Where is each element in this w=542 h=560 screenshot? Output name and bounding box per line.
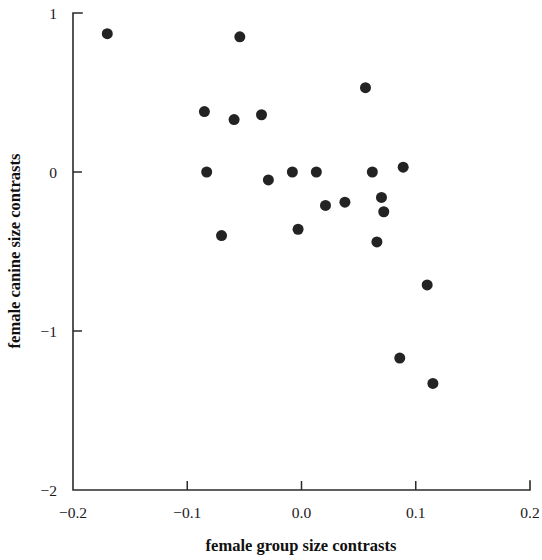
data-point	[263, 174, 274, 185]
data-point	[320, 200, 331, 211]
data-point	[201, 167, 212, 178]
data-point	[293, 224, 304, 235]
data-point	[229, 114, 240, 125]
data-point	[234, 31, 245, 42]
data-points-group	[102, 28, 439, 389]
data-point	[287, 167, 298, 178]
data-point	[102, 28, 113, 39]
y-axis-tick-label: 1	[49, 5, 57, 22]
y-axis-title: female canine size contrasts	[5, 153, 24, 348]
x-axis-tick-label: 0.0	[292, 504, 312, 521]
data-point	[367, 167, 378, 178]
data-point	[371, 236, 382, 247]
y-axis-tick-label: 0	[49, 164, 57, 181]
data-point	[199, 106, 210, 117]
data-point	[398, 162, 409, 173]
data-point	[256, 109, 267, 120]
x-axis-title: female group size contrasts	[206, 536, 397, 555]
x-axis-tick-label: 0.1	[406, 504, 425, 521]
x-axis-tick-label: −0.1	[173, 504, 201, 521]
x-axis-tick-label: −0.2	[59, 504, 87, 521]
data-point	[339, 197, 350, 208]
x-axis-tick-label: 0.2	[520, 504, 539, 521]
x-axis-tick-labels: −0.2−0.10.00.10.2	[59, 504, 540, 521]
y-axis-tick-label: −1	[41, 323, 58, 340]
axis-frame	[73, 13, 530, 490]
data-point	[427, 378, 438, 389]
x-axis-ticks	[187, 481, 416, 490]
data-point	[311, 167, 322, 178]
scatter-plot-figure: 10−1−2 −0.2−0.10.00.10.2 female group si…	[0, 0, 542, 560]
data-point	[422, 279, 433, 290]
data-point	[216, 230, 227, 241]
data-point	[360, 82, 371, 93]
data-point	[378, 206, 389, 217]
axes-group	[73, 13, 530, 490]
plot-canvas: 10−1−2 −0.2−0.10.00.10.2 female group si…	[0, 0, 542, 560]
data-point	[394, 353, 405, 364]
y-axis-tick-labels: 10−1−2	[41, 5, 58, 499]
y-axis-tick-label: −2	[41, 482, 58, 499]
y-axis-ticks	[73, 172, 82, 331]
data-point	[376, 192, 387, 203]
